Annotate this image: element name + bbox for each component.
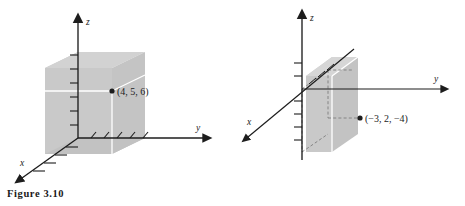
left-point-marker <box>109 88 114 93</box>
left-z-axis-label: z <box>85 17 90 27</box>
right-z-axis-label: z <box>309 13 314 23</box>
figure-illustration: z y x (4, 5, 6) <box>0 0 465 206</box>
figure-caption: Figure 3.10 <box>7 188 64 199</box>
right-diagram: z y x (−3, 2, −4) <box>246 13 441 160</box>
left-diagram: z y x (4, 5, 6) <box>19 17 203 178</box>
left-point-label: (4, 5, 6) <box>117 86 149 98</box>
left-y-axis-label: y <box>195 123 201 133</box>
right-z-ticks <box>294 63 302 140</box>
right-point-marker <box>357 115 362 120</box>
right-x-axis-label: x <box>246 117 252 127</box>
right-y-axis-label: y <box>433 74 439 84</box>
left-x-axis-label: x <box>19 158 25 168</box>
figure-3-10: z y x (4, 5, 6) <box>0 0 465 206</box>
right-point-label: (−3, 2, −4) <box>365 113 408 125</box>
left-box-solid <box>45 52 145 154</box>
